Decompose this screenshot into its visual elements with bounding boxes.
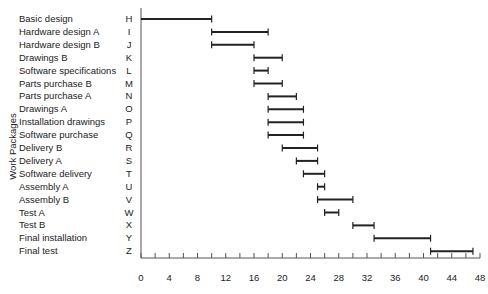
x-tick-label: 16 bbox=[244, 272, 264, 283]
x-tick-label: 40 bbox=[414, 272, 434, 283]
x-tick-label: 8 bbox=[188, 272, 208, 283]
x-tick-label: 4 bbox=[159, 272, 179, 283]
x-tick-label: 24 bbox=[301, 272, 321, 283]
x-tick-label: 12 bbox=[216, 272, 236, 283]
x-tick-label: 44 bbox=[442, 272, 462, 283]
x-tick-label: 20 bbox=[272, 272, 292, 283]
plot-area bbox=[0, 0, 488, 294]
x-tick-label: 48 bbox=[470, 272, 488, 283]
x-tick-label: 28 bbox=[329, 272, 349, 283]
x-tick-label: 36 bbox=[385, 272, 405, 283]
x-tick-label: 32 bbox=[357, 272, 377, 283]
x-tick-label: 0 bbox=[131, 272, 151, 283]
